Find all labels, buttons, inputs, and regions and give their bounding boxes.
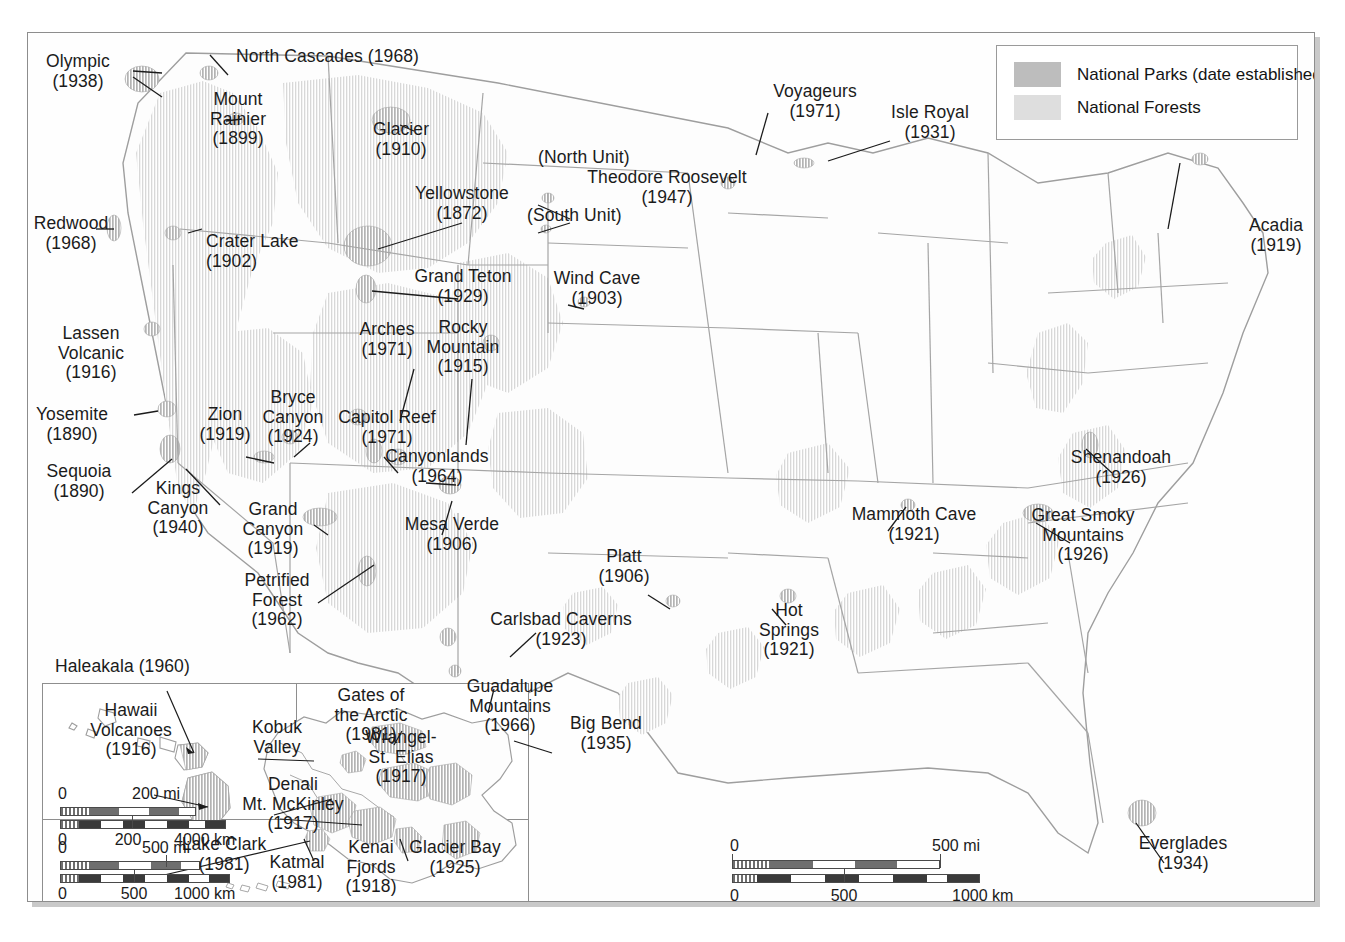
park-label: Carlsbad Caverns (1923) (490, 610, 632, 649)
park-label: Theodore Roosevelt (1947) (587, 168, 746, 207)
park-label: Capitol Reef (1971) (338, 408, 436, 447)
inset-park-label: Glacier Bay (1925) (409, 838, 501, 877)
park-label: North Cascades (1968) (236, 47, 419, 67)
map-page: National Parks (date established) Nation… (0, 0, 1345, 942)
main-scalebar: 0 500 mi 0 500 1000 km (708, 833, 1038, 902)
park-label: Rocky Mountain (1915) (427, 318, 500, 377)
inset-park-label: Lake Clark (1981) (182, 835, 267, 874)
inset-park-label: Denali Mt. McKinley (1917) (242, 775, 343, 834)
park-label: Mammoth Cave (1921) (852, 505, 977, 544)
park-label: Canyonlands (1964) (385, 447, 488, 486)
inset-park-label: Wrangel- St. Elias (1917) (365, 728, 436, 787)
park-label: Guadalupe Mountains (1966) (467, 677, 554, 736)
park-label: Zion (1919) (199, 405, 250, 444)
park-label: Olympic (1938) (46, 52, 110, 91)
park-label: (North Unit) (538, 148, 630, 168)
park-label: Yosemite (1890) (36, 405, 108, 444)
park-label: Crater Lake (1902) (206, 232, 299, 271)
inset-park-label: Hawaii Volcanoes (1916) (90, 701, 172, 760)
hawaii-scale-mi-zero: 0 (58, 785, 67, 803)
inset-park-label: Kenai Fjords (1918) (345, 838, 396, 897)
inset-park-label: Katmal (1981) (269, 853, 324, 892)
alaska-scale-km-zero: 0 (58, 885, 67, 902)
scalebar-kilometers (732, 874, 980, 883)
park-label: Yellowstone (1872) (415, 184, 509, 223)
park-label: Voyageurs (1971) (773, 82, 857, 121)
park-label: Big Bend (1935) (570, 714, 642, 753)
scalebar-miles (732, 860, 940, 869)
park-label: Acadia (1919) (1249, 216, 1303, 255)
alaska-scale-mi-zero: 0 (58, 839, 67, 857)
park-label: Platt (1906) (598, 547, 649, 586)
inset-park-label: Haleakala (1960) (55, 657, 190, 677)
alaska-scale-km-mid: 500 (121, 885, 148, 902)
park-label: Hot Springs (1921) (759, 601, 819, 660)
main-scale-km-mid: 500 (831, 887, 858, 902)
park-label: Everglades (1934) (1139, 834, 1228, 873)
main-scale-km-end: 1000 km (952, 887, 1013, 902)
park-label: Sequoia (1890) (47, 462, 112, 501)
park-label: Bryce Canyon (1924) (263, 388, 324, 447)
main-scale-mi-zero: 0 (730, 837, 739, 855)
park-label: Great Smoky Mountains (1926) (1031, 506, 1134, 565)
hawaii-scale-mi-end: 200 mi (132, 785, 180, 803)
park-label: Lassen Volcanic (1916) (58, 324, 124, 383)
main-scale-mi-end: 500 mi (932, 837, 980, 855)
park-label: Isle Royal (1931) (891, 103, 969, 142)
park-label: Wind Cave (1903) (554, 269, 641, 308)
park-label: Shenandoah (1926) (1071, 448, 1171, 487)
park-label: Kings Canyon (1940) (148, 479, 209, 538)
park-label: Petrified Forest (1962) (244, 571, 309, 630)
park-label: Glacier (1910) (373, 120, 429, 159)
alaska-scale-km-end: 1000 km (174, 885, 235, 902)
park-label: Mount Rainier (1899) (210, 90, 266, 149)
main-scale-km-zero: 0 (730, 887, 739, 902)
park-label: Grand Canyon (1919) (243, 500, 304, 559)
park-label: Redwood (1968) (34, 214, 109, 253)
park-label: Mesa Verde (1906) (405, 515, 499, 554)
park-label: Grand Teton (1929) (414, 267, 511, 306)
park-label: (South Unit) (527, 206, 622, 226)
park-label: Arches (1971) (359, 320, 414, 359)
inset-park-label: Kobuk Valley (252, 718, 302, 757)
